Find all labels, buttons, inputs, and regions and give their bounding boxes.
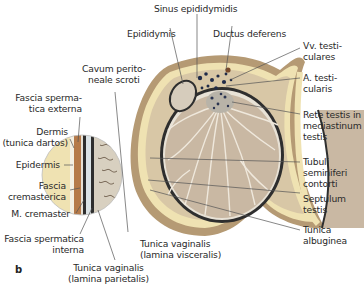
label-fascia-cremasterica: Fascia cremasterica — [0, 180, 66, 202]
label-epididymis: Epididymis — [127, 28, 176, 39]
label-tubuli-seminiferi: Tubuli seminiferi contorti — [303, 156, 347, 189]
label-ductus-deferens: Ductus deferens — [213, 28, 286, 39]
label-fascia-spermatica-externa: Fascia sperma- tica externa — [6, 92, 82, 114]
label-vv-testiculares: Vv. testi- culares — [303, 40, 342, 62]
label-septulum-testis: Septulum testis — [303, 193, 346, 215]
label-cavum-peritoneale: Cavum perito- neale scroti — [82, 63, 146, 85]
anatomy-figure: Sinus epididymidis Epididymis Ductus def… — [0, 0, 364, 285]
panel-label: b — [15, 264, 22, 275]
label-a-testicularis: A. testi- cularis — [303, 72, 337, 94]
label-m-cremaster: M. cremaster — [0, 208, 70, 219]
label-tunica-albuginea: Tunica albuginea — [303, 224, 347, 246]
label-tunica-vaginalis-visceralis: Tunica vaginalis (lamina visceralis) — [140, 238, 221, 260]
label-dermis: Dermis (tunica dartos) — [0, 126, 68, 148]
label-sinus-epididymidis: Sinus epididymidis — [154, 3, 237, 14]
label-fascia-spermatica-interna: Fascia spermatica interna — [0, 233, 84, 255]
label-tunica-vaginalis-parietalis: Tunica vaginalis (lamina parietalis) — [68, 262, 149, 284]
label-rete-testis: Rete testis in mediastinum testis — [303, 109, 362, 142]
label-epidermis: Epidermis — [0, 159, 60, 170]
